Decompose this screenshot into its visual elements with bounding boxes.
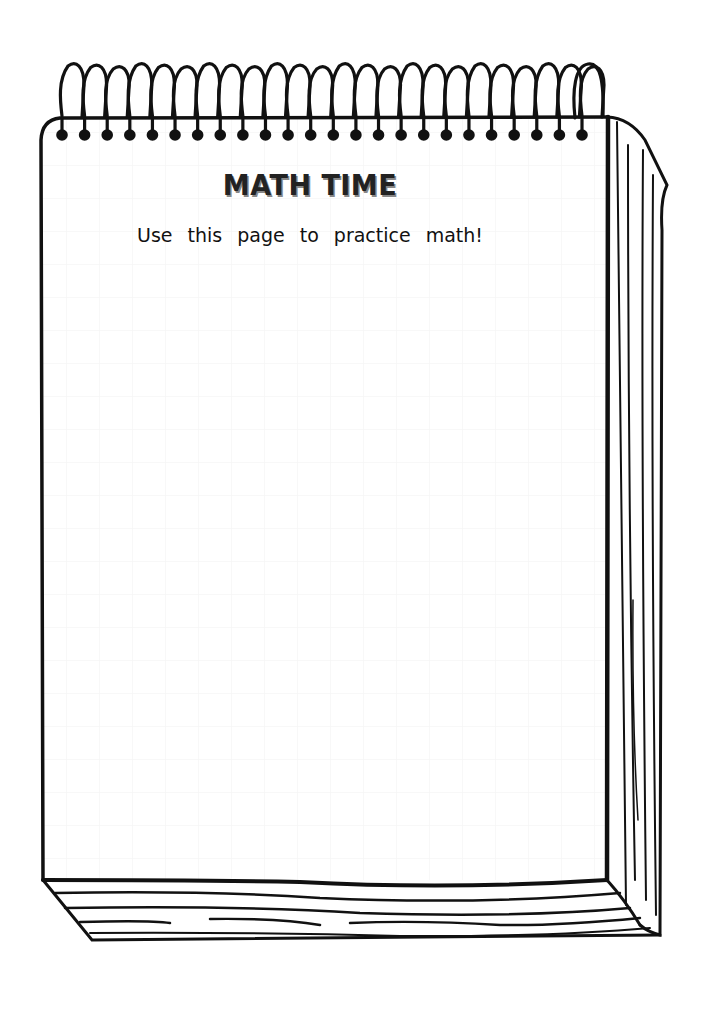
binding-hole: [395, 129, 407, 141]
binding-hole: [508, 129, 520, 141]
binding-hole: [124, 129, 136, 141]
binding-hole: [531, 129, 543, 141]
binding-hole: [463, 129, 475, 141]
page-subtitle: Use this page to practice math!: [0, 224, 620, 246]
binding-hole: [282, 129, 294, 141]
binding-hole: [328, 129, 340, 141]
notepad-illustration: [0, 0, 702, 1016]
binding-hole: [101, 129, 113, 141]
binding-hole: [441, 129, 453, 141]
binding-hole: [237, 129, 249, 141]
binding-hole: [169, 129, 181, 141]
binding-hole: [305, 129, 317, 141]
binding-hole: [260, 129, 272, 141]
binding-hole: [576, 129, 588, 141]
binding-hole: [79, 129, 91, 141]
binding-hole: [192, 129, 204, 141]
binding-hole: [56, 129, 68, 141]
binding-hole: [418, 129, 430, 141]
binding-hole: [214, 129, 226, 141]
binding-hole: [350, 129, 362, 141]
page-title: MATH TIME: [0, 169, 620, 202]
binding-hole: [147, 129, 159, 141]
binding-hole: [373, 129, 385, 141]
page-stack-bottom-edge: [43, 880, 660, 940]
binding-hole: [486, 129, 498, 141]
binding-hole: [554, 129, 566, 141]
